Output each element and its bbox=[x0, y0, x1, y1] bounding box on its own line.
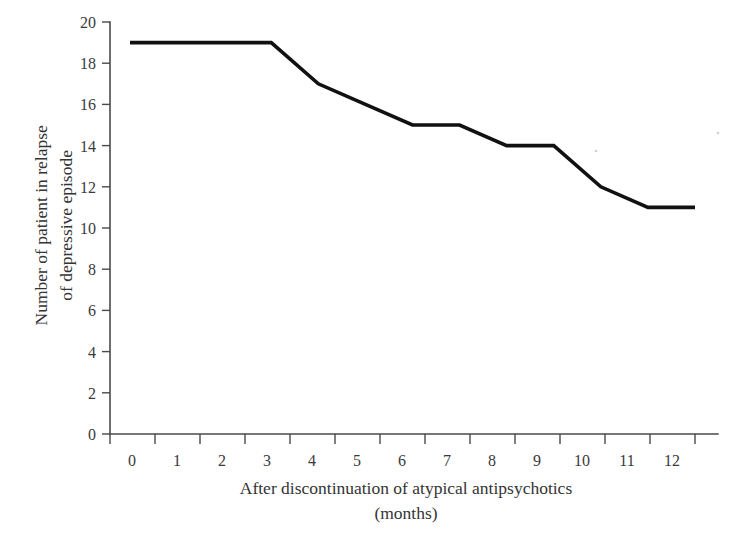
x-tick-label: 7 bbox=[443, 452, 451, 469]
y-axis-ticks: 0 2 4 6 8 10 12 14 16 18 20 bbox=[80, 14, 110, 443]
x-tick-label: 11 bbox=[619, 452, 634, 469]
scan-speck bbox=[595, 150, 598, 153]
y-tick-label: 6 bbox=[88, 302, 96, 319]
y-tick-label: 20 bbox=[80, 14, 96, 31]
y-tick-label: 2 bbox=[88, 385, 96, 402]
x-tick-label: 0 bbox=[128, 452, 136, 469]
x-tick-label: 10 bbox=[574, 452, 590, 469]
x-tick-label: 3 bbox=[263, 452, 271, 469]
scan-speck bbox=[717, 132, 720, 135]
y-tick-label: 18 bbox=[80, 55, 96, 72]
data-series-line bbox=[130, 43, 695, 208]
x-tick-label: 4 bbox=[308, 452, 316, 469]
x-tick-label: 9 bbox=[533, 452, 541, 469]
y-tick-label: 0 bbox=[88, 426, 96, 443]
x-tick-label: 12 bbox=[664, 452, 680, 469]
y-tick-label: 14 bbox=[80, 138, 96, 155]
x-tick-label: 5 bbox=[353, 452, 361, 469]
relapse-line-chart: 0 2 4 6 8 10 12 14 16 18 20 bbox=[0, 0, 754, 538]
y-tick-label: 12 bbox=[80, 179, 96, 196]
y-tick-label: 16 bbox=[80, 96, 96, 113]
x-tick-label: 2 bbox=[218, 452, 226, 469]
x-tick-label: 8 bbox=[488, 452, 496, 469]
y-tick-label: 10 bbox=[80, 220, 96, 237]
x-tick-label: 1 bbox=[173, 452, 181, 469]
x-axis-ticks: 0 1 2 3 4 5 6 7 8 9 10 11 12 bbox=[110, 434, 695, 469]
x-tick-label: 6 bbox=[398, 452, 406, 469]
chart-canvas: 0 2 4 6 8 10 12 14 16 18 20 bbox=[0, 0, 754, 538]
y-tick-label: 4 bbox=[88, 344, 96, 361]
y-tick-label: 8 bbox=[88, 261, 96, 278]
axes-group bbox=[110, 22, 718, 434]
